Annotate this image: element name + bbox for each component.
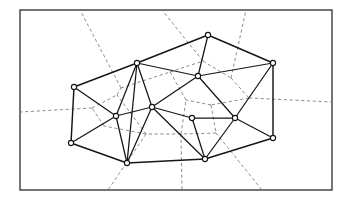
voronoi-edge [104, 126, 146, 134]
convex-hull-edge [71, 143, 127, 163]
voronoi-edge [92, 108, 104, 126]
site-point [71, 84, 76, 89]
convex-hull-edge [74, 63, 137, 87]
convex-hull-edge [208, 35, 273, 63]
delaunay-edge [152, 76, 198, 107]
delaunay-edge [205, 118, 235, 159]
voronoi-edge [170, 61, 203, 72]
delaunay-edge [137, 63, 198, 76]
voronoi-delaunay-diagram [0, 0, 349, 200]
delaunay-edge [116, 107, 152, 116]
voronoi-edge [186, 100, 211, 105]
site-point [270, 60, 275, 65]
site-point [134, 60, 139, 65]
delaunay-edge [137, 63, 152, 107]
convex-hull-edge [71, 87, 74, 143]
convex-hull-edge [127, 159, 205, 163]
site-point [205, 32, 210, 37]
site-point [232, 115, 237, 120]
site-point [189, 115, 194, 120]
voronoi-edge [117, 88, 121, 95]
site-point [68, 140, 73, 145]
site-point [270, 135, 275, 140]
delaunay-edge [71, 116, 116, 143]
voronoi-edge [181, 100, 186, 134]
site-point [113, 113, 118, 118]
delaunay-edge [235, 63, 273, 118]
delaunay-edge [198, 35, 208, 76]
site-point [202, 156, 207, 161]
site-point [149, 104, 154, 109]
voronoi-ray [181, 134, 182, 190]
voronoi-edge [211, 98, 249, 105]
delaunay-edge [198, 76, 235, 118]
delaunay-edge [116, 116, 127, 163]
convex-hull-edge [137, 35, 208, 63]
site-point [195, 73, 200, 78]
convex-hull-edge [205, 138, 273, 159]
voronoi-edge [181, 133, 216, 134]
site-point [124, 160, 129, 165]
voronoi-diagram-layer [20, 10, 332, 190]
delaunay-edge [74, 87, 116, 116]
figure-container [0, 0, 349, 200]
voronoi-ray [162, 10, 203, 61]
delaunay-edge [127, 107, 152, 163]
voronoi-ray [20, 108, 92, 112]
voronoi-edge [231, 78, 249, 98]
voronoi-edge [203, 61, 231, 78]
delaunay-edge [235, 118, 273, 138]
voronoi-ray [216, 133, 262, 190]
voronoi-edge [211, 105, 216, 133]
voronoi-ray [249, 98, 332, 102]
site-points-layer [68, 32, 275, 165]
